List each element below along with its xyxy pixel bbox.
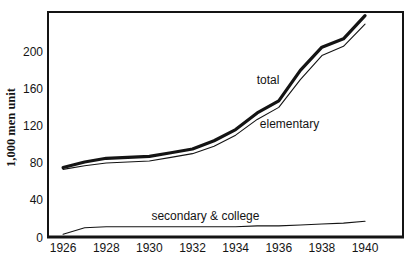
x-axis-tick-label: 1938 xyxy=(309,241,336,255)
y-axis-tick-label: 160 xyxy=(23,82,43,96)
plot-border xyxy=(48,12,403,237)
x-axis-tick-label: 1930 xyxy=(136,241,163,255)
series-line-total xyxy=(63,16,365,168)
x-axis-tick-label: 1932 xyxy=(179,241,206,255)
series-label-elementary: elementary xyxy=(260,117,319,131)
series-line-secondary-college xyxy=(63,221,365,234)
x-axis-tick-label: 1936 xyxy=(265,241,292,255)
y-axis-tick-label: 120 xyxy=(23,119,43,133)
y-axis-tick-label: 80 xyxy=(30,156,44,170)
x-axis-tick-label: 1926 xyxy=(50,241,77,255)
line-chart: 0408012016020019261928193019321934193619… xyxy=(0,0,415,266)
y-axis-tick-label: 0 xyxy=(36,231,43,245)
x-axis-tick-label: 1934 xyxy=(222,241,249,255)
chart-figure: 0408012016020019261928193019321934193619… xyxy=(0,0,415,266)
y-axis-title: 1,000 men unit xyxy=(4,87,18,167)
x-axis-tick-label: 1940 xyxy=(352,241,379,255)
x-axis-tick-label: 1928 xyxy=(93,241,120,255)
y-axis-tick-label: 40 xyxy=(30,193,44,207)
series-label-total: total xyxy=(257,73,280,87)
series-line-elementary xyxy=(63,24,365,169)
series-label-secondary-college: secondary & college xyxy=(151,209,259,223)
y-axis-tick-label: 200 xyxy=(23,45,43,59)
